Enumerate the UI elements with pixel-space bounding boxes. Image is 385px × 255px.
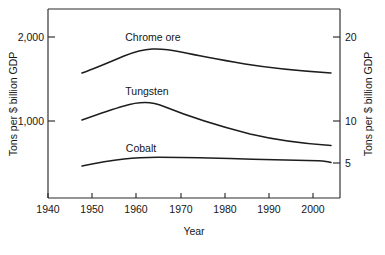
ytick-right-label-5: 5 bbox=[345, 157, 351, 169]
series-curve-chrome-ore bbox=[82, 49, 331, 73]
ytick-left-label-2000: 2,000 bbox=[18, 31, 44, 43]
xtick-label-1940: 1940 bbox=[36, 203, 60, 215]
xtick-label-1970: 1970 bbox=[169, 203, 193, 215]
ytick-left-label-1000: 1,000 bbox=[18, 115, 44, 127]
xtick-label-1960: 1960 bbox=[124, 203, 148, 215]
y-axis-right-title: Tons per $ billion GDP bbox=[362, 52, 374, 156]
series-label-cobalt: Cobalt bbox=[126, 142, 156, 154]
x-axis-title: Year bbox=[183, 225, 205, 237]
intensity-of-use-line-chart: 2,000 1,000 20 10 5 1940 1950 1960 1970 … bbox=[0, 0, 385, 255]
ytick-right-label-10: 10 bbox=[345, 115, 357, 127]
xtick-label-1950: 1950 bbox=[80, 203, 104, 215]
series-label-chrome-ore: Chrome ore bbox=[125, 31, 181, 43]
y-axis-left-title: Tons per $ billion GDP bbox=[7, 52, 19, 156]
xtick-label-1990: 1990 bbox=[257, 203, 281, 215]
ytick-right-label-20: 20 bbox=[345, 31, 357, 43]
series-curve-tungsten bbox=[82, 103, 331, 146]
series-label-tungsten: Tungsten bbox=[125, 85, 169, 97]
series-curve-cobalt bbox=[82, 157, 331, 166]
chart-page: 2,000 1,000 20 10 5 1940 1950 1960 1970 … bbox=[0, 0, 385, 255]
xtick-label-2000: 2000 bbox=[301, 203, 325, 215]
xtick-label-1980: 1980 bbox=[213, 203, 237, 215]
